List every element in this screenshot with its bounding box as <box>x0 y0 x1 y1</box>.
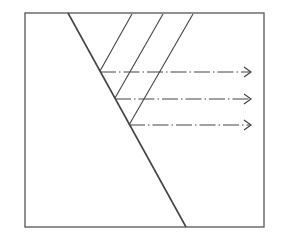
diagram-svg <box>0 0 281 240</box>
diagram-canvas <box>0 0 281 240</box>
emergent-ray-2 <box>115 94 251 104</box>
main-boundary-line <box>68 13 186 227</box>
emergent-ray-1 <box>100 67 251 77</box>
incident-ray-2 <box>115 14 163 98</box>
emergent-ray-3 <box>129 120 251 130</box>
incident-ray-1 <box>100 14 132 71</box>
incident-rays-group <box>100 14 193 125</box>
incident-ray-3 <box>129 14 193 125</box>
emergent-rays-group <box>100 67 251 130</box>
diagram-frame <box>25 13 264 227</box>
